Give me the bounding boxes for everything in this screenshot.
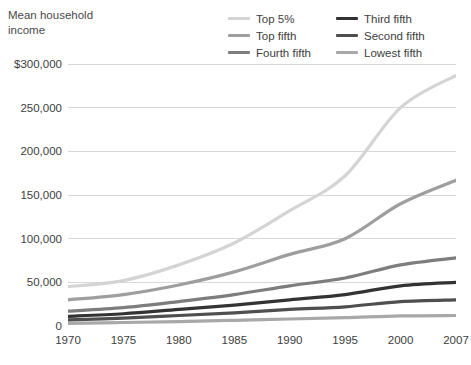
legend-item-label: Third fifth <box>364 13 412 25</box>
legend-item-label: Lowest fifth <box>364 47 422 59</box>
legend-item-second-fifth[interactable]: Second fifth <box>336 30 456 42</box>
legend-item-label: Fourth fifth <box>256 47 311 59</box>
plot-area <box>68 64 456 326</box>
x-axis-tick-label: 1990 <box>277 334 303 346</box>
legend-swatch-icon <box>228 34 250 37</box>
y-axis-tick-label: 250,000 <box>0 102 62 114</box>
y-axis-tick-label: 150,000 <box>0 189 62 201</box>
y-axis-tick-label: 200,000 <box>0 145 62 157</box>
series-line-top-5 <box>68 75 456 286</box>
y-axis-tick-label: 100,000 <box>0 233 62 245</box>
legend-item-top-fifth[interactable]: Top fifth <box>228 30 336 42</box>
x-axis-tick-labels: 19701975198019851990199520002007 <box>68 334 456 354</box>
x-axis-tick-label: 1980 <box>166 334 192 346</box>
y-axis-tick-label: 0 <box>0 320 62 332</box>
legend-item-label: Top fifth <box>256 30 296 42</box>
legend-item-label: Top 5% <box>256 13 294 25</box>
x-axis-tick-label: 2000 <box>388 334 414 346</box>
chart-page: Mean household income Top 5%Third fifthT… <box>0 0 471 365</box>
y-axis-tick-label: $300,000 <box>0 58 62 70</box>
x-axis-tick-label: 1975 <box>111 334 137 346</box>
x-axis-tick-label: 1970 <box>55 334 81 346</box>
legend-item-top-5[interactable]: Top 5% <box>228 13 336 25</box>
y-axis-tick-label: 50,000 <box>0 276 62 288</box>
chart-svg <box>68 64 456 326</box>
legend-swatch-icon <box>336 51 358 54</box>
x-axis-tick-label: 1985 <box>221 334 247 346</box>
legend-item-fourth-fifth[interactable]: Fourth fifth <box>228 47 336 59</box>
y-axis-tick-labels: $300,000250,000200,000150,000100,00050,0… <box>0 0 62 365</box>
chart-legend: Top 5%Third fifthTop fifthSecond fifthFo… <box>228 10 466 61</box>
legend-item-third-fifth[interactable]: Third fifth <box>336 13 456 25</box>
legend-item-label: Second fifth <box>364 30 425 42</box>
x-axis-tick-label: 1995 <box>332 334 358 346</box>
legend-swatch-icon <box>228 51 250 54</box>
legend-swatch-icon <box>228 17 250 20</box>
legend-item-lowest-fifth[interactable]: Lowest fifth <box>336 47 456 59</box>
x-axis-tick-label: 2007 <box>443 334 469 346</box>
legend-swatch-icon <box>336 34 358 37</box>
legend-swatch-icon <box>336 17 358 20</box>
